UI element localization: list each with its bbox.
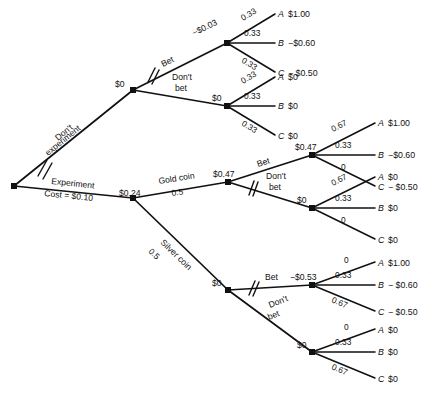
outcome-payoff-g5-c: − $0.50 xyxy=(388,307,418,317)
prune-mark-dont-experiment xyxy=(38,160,52,179)
outcome-letter-g3-b: B xyxy=(378,150,384,160)
outcome-letter-g2-c: C xyxy=(278,131,285,141)
value-silver-nobet: $0 xyxy=(297,340,307,350)
outcome-letter-g2-a: A xyxy=(277,72,284,82)
prob-g1-a: 0.33 xyxy=(239,6,258,23)
outcome-letter-g4-b: B xyxy=(378,203,384,213)
prob-g1-b: 0.33 xyxy=(244,28,261,38)
prob-g6-c: 0.67 xyxy=(330,362,349,378)
node-silver-bet-chance xyxy=(310,283,315,288)
value-no-exp-decision: $0 xyxy=(115,79,125,89)
value-no-exp-nobet: $0 xyxy=(212,93,222,103)
label-bet-gold: Bet xyxy=(256,155,272,169)
outcome-letter-g1-b: B xyxy=(278,38,284,48)
prob-g5-a: 0 xyxy=(344,255,349,265)
prob-g4-b: 0.33 xyxy=(335,193,352,203)
label-bet-silver: Bet xyxy=(265,272,279,282)
prob-g3-a: 0.67 xyxy=(329,117,348,133)
node-no-exp-decision xyxy=(131,88,136,93)
outcome-letter-g5-b: B xyxy=(378,280,384,290)
node-silver-nobet-chance xyxy=(310,350,315,355)
label-experiment-line2: Cost = $0.10 xyxy=(44,188,94,203)
node-gold-decision xyxy=(226,180,231,185)
outcome-payoff-g4-b: $0 xyxy=(388,203,398,213)
node-silver-decision xyxy=(226,288,231,293)
prob-g2-b: 0.33 xyxy=(244,91,261,101)
outcome-payoff-g1-a: $1.00 xyxy=(288,9,310,19)
value-gold-nobet: $0 xyxy=(297,195,307,205)
outcome-payoff-g4-a: $0 xyxy=(388,172,398,182)
outcome-payoff-g2-c: $0 xyxy=(288,131,298,141)
value-gold-decision: $0.47 xyxy=(213,169,235,179)
value-experiment: $0.24 xyxy=(119,188,141,198)
outcome-letter-g3-a: A xyxy=(377,118,384,128)
outcome-payoff-g4-c: $0 xyxy=(388,235,398,245)
prob-g6-b: 0.33 xyxy=(335,337,352,347)
edge-dont-experiment xyxy=(14,90,133,186)
outcome-letter-g1-a: A xyxy=(277,9,284,19)
prob-g4-a: 0.67 xyxy=(329,171,348,187)
label-dont-bet-silver-line1: Don't xyxy=(267,293,290,310)
outcome-payoff-g3-c: − $0.50 xyxy=(388,182,418,192)
label-gold-coin: Gold coin xyxy=(158,170,196,186)
outcome-payoff-g3-b: −$0.60 xyxy=(388,150,415,160)
node-gold-nobet-chance xyxy=(310,206,315,211)
label-dont-bet-gold-line1: Don't xyxy=(266,171,286,181)
outcome-payoff-g3-a: $1.00 xyxy=(388,118,410,128)
decision-tree-diagram: Don't experiment Experiment Cost = $0.10… xyxy=(0,0,443,395)
prob-g2-a: 0.33 xyxy=(239,69,258,86)
outcome-payoff-g6-a: $0 xyxy=(388,325,398,335)
outcome-letter-g4-a: A xyxy=(377,172,384,182)
node-no-exp-nobet-chance xyxy=(225,104,230,109)
outcome-payoff-g2-a: $0 xyxy=(288,72,298,82)
outcome-letter-g5-a: A xyxy=(377,258,384,268)
outcome-letter-g4-c: C xyxy=(378,235,385,245)
outcome-letter-g3-c: C xyxy=(378,182,385,192)
outcome-payoff-g5-a: $1.00 xyxy=(388,258,410,268)
outcome-letter-g6-a: A xyxy=(377,325,384,335)
value-no-exp-bet: −$0.03 xyxy=(190,17,218,38)
node-no-exp-bet-chance xyxy=(225,41,230,46)
prob-gold-coin: 0.5 xyxy=(171,186,184,198)
edge-silver-coin xyxy=(133,198,228,290)
prob-g3-c: 0 xyxy=(341,162,346,172)
outcome-letter-g2-b: B xyxy=(278,101,284,111)
value-silver-decision: $0 xyxy=(212,278,222,288)
value-gold-bet: $0.47 xyxy=(295,142,317,152)
edge-silver-bet xyxy=(228,285,312,290)
prob-silver-coin: 0.5 xyxy=(147,246,163,262)
label-dont-bet-gold-line2: bet xyxy=(269,182,282,192)
outcome-payoff-g5-b: − $0.60 xyxy=(388,280,418,290)
value-silver-bet: −$0.53 xyxy=(290,272,317,282)
prob-g5-b: 0.33 xyxy=(335,270,352,280)
prob-g2-c: 0.33 xyxy=(240,118,259,135)
node-gold-bet-chance xyxy=(310,153,315,158)
outcome-letter-g5-c: C xyxy=(378,307,385,317)
prob-g6-a: 0 xyxy=(344,322,349,332)
label-dont-bet-no-exp-line1: Don't xyxy=(172,72,192,82)
label-silver-coin: Silver coin xyxy=(159,237,195,272)
label-dont-bet-no-exp-line2: bet xyxy=(175,83,188,93)
outcome-letter-g6-c: C xyxy=(378,374,385,384)
label-bet-no-exp: Bet xyxy=(159,54,176,69)
outcome-payoff-g6-b: $0 xyxy=(388,347,398,357)
node-root xyxy=(12,184,17,189)
prob-g5-c: 0.67 xyxy=(330,295,349,311)
outcome-letter-g6-b: B xyxy=(378,347,384,357)
outcome-payoff-g2-b: $0 xyxy=(288,101,298,111)
prob-g4-c: 0 xyxy=(341,215,346,225)
label-dont-bet-silver-line2: bet xyxy=(266,308,281,322)
outcome-payoff-g6-c: $0 xyxy=(388,374,398,384)
prob-g3-b: 0.33 xyxy=(335,140,352,150)
outcome-payoff-g1-b: −$0.60 xyxy=(288,38,315,48)
